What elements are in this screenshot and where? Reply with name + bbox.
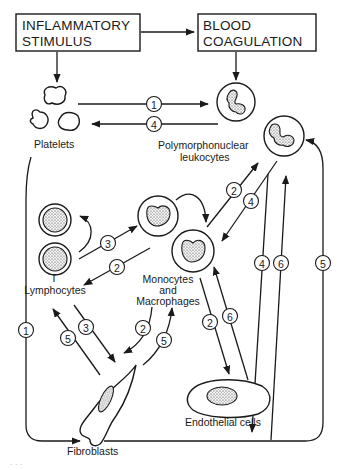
- fibroblast-icon: [80, 365, 136, 446]
- mono-label-line3: Macrophages: [136, 295, 200, 307]
- svg-text:5: 5: [65, 333, 71, 345]
- pmn-label-line1: Polymorphonuclear: [158, 139, 249, 151]
- t-to-fibro-arrow: [74, 305, 115, 362]
- platelets-icon: [30, 87, 79, 131]
- pathway-badge: 2: [136, 321, 151, 336]
- svg-text:6: 6: [278, 258, 284, 270]
- coagulation-label: COAGULATION: [203, 34, 302, 49]
- t-lymphocyte-lower-icon: [39, 243, 71, 275]
- pathway-badge: 1: [147, 97, 162, 112]
- svg-text:2: 2: [140, 323, 146, 335]
- pathway-badge: 1: [19, 323, 34, 338]
- platelets-to-fibro-arrow: [26, 157, 80, 441]
- inflammatory-label: INFLAMMATORY: [22, 18, 130, 33]
- t-lymphocyte-upper-icon: [39, 204, 71, 236]
- pathway-badge: 6: [274, 256, 289, 271]
- pathway-badge: 4: [244, 194, 259, 209]
- pmn-label-line2: leukocytes: [180, 151, 230, 163]
- svg-text:4: 4: [151, 119, 157, 131]
- inflammation-cell-interaction-diagram: INFLAMMATORY STIMULUS BLOOD COAGULATION …: [0, 0, 346, 470]
- pathway-badge: 2: [110, 260, 125, 275]
- t-label-line1: T: [51, 272, 58, 284]
- monocyte-differentiation-arrow: [176, 194, 206, 222]
- blood-coagulation-box: BLOOD COAGULATION: [198, 14, 316, 51]
- blood-label: BLOOD: [203, 18, 251, 33]
- fibroblasts-label: Fibroblasts: [67, 445, 118, 457]
- pathway-badge: 2: [203, 315, 218, 330]
- svg-text:5: 5: [161, 335, 167, 347]
- svg-text:4: 4: [259, 258, 265, 270]
- pathway-badge: 2: [227, 183, 242, 198]
- pmn-cell-right-icon: [264, 116, 304, 156]
- platelets-label: Platelets: [34, 138, 74, 150]
- svg-text:5: 5: [320, 258, 326, 270]
- t-label-line2: Lymphocytes: [24, 284, 85, 296]
- endothelial-cell-icon: [187, 380, 270, 418]
- pathway-badge: 4: [255, 256, 270, 271]
- pathway-badge: 5: [61, 331, 76, 346]
- svg-text:2: 2: [231, 185, 237, 197]
- svg-text:3: 3: [83, 322, 89, 334]
- fibro-to-t-arrow: [53, 309, 100, 375]
- pathway-badge: 6: [223, 309, 238, 324]
- pathway-badge: 5: [316, 256, 331, 271]
- inflammatory-stimulus-box: INFLAMMATORY STIMULUS: [16, 14, 140, 51]
- endothelial-label: Endothelial cells: [185, 416, 261, 428]
- monocyte-upper-icon: [138, 196, 178, 236]
- footer-mark: · · ·: [10, 460, 22, 469]
- svg-text:2: 2: [207, 317, 213, 329]
- macrophage-lower-icon: [172, 230, 214, 272]
- pathway-badge: 3: [79, 320, 94, 335]
- endo-to-pmn-arrow: [271, 176, 286, 440]
- svg-text:4: 4: [248, 196, 254, 208]
- svg-text:2: 2: [114, 262, 120, 274]
- stimulus-label: STIMULUS: [22, 34, 92, 49]
- svg-text:6: 6: [227, 311, 233, 323]
- t-cell-proliferation-arrow: [79, 216, 91, 252]
- pathway-badge: 4: [147, 117, 162, 132]
- pathway-badge: 3: [101, 236, 116, 251]
- pathway-badge: 5: [157, 333, 172, 348]
- pmn-cell-top-icon: [217, 83, 255, 121]
- svg-text:3: 3: [105, 238, 111, 250]
- svg-text:1: 1: [151, 99, 157, 111]
- svg-text:1: 1: [23, 325, 29, 337]
